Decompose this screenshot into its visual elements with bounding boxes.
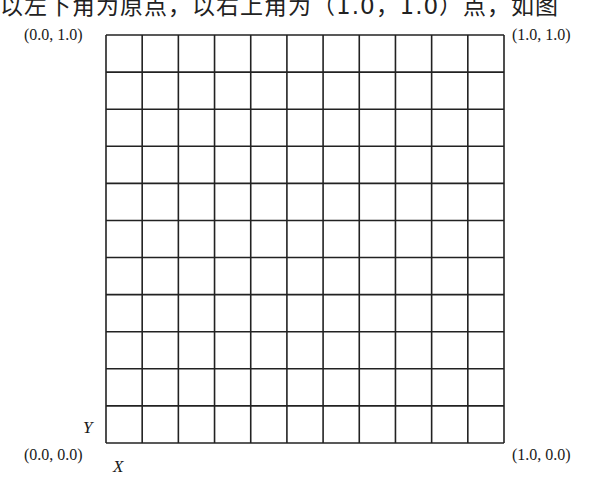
- corner-label-bottom-right: (1.0, 0.0): [512, 446, 571, 464]
- corner-label-top-right: (1.0, 1.0): [512, 26, 571, 44]
- y-axis-label: Y: [83, 418, 92, 438]
- corner-label-top-left: (0.0, 1.0): [24, 26, 83, 44]
- corner-label-bottom-left: (0.0, 0.0): [24, 446, 83, 464]
- x-axis-label: X: [113, 457, 123, 477]
